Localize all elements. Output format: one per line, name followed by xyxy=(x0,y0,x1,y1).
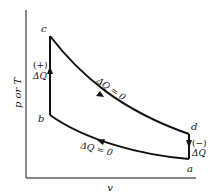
heat-out-sign: (−) xyxy=(192,138,207,148)
arrow-up-icon xyxy=(47,66,53,74)
adiabat-upper-label: ΔQ = 0 xyxy=(94,75,128,103)
point-label-a: a xyxy=(187,163,193,174)
point-label-c: c xyxy=(41,23,47,34)
thermodynamic-cycle-diagram: p or T v c b d a xyxy=(0,0,210,196)
process-c-d xyxy=(50,36,189,134)
heat-in-sign: (+) xyxy=(33,60,48,70)
y-axis-label: p or T xyxy=(12,77,23,109)
point-label-d: d xyxy=(191,121,197,132)
arrows xyxy=(47,66,192,148)
arrow-down-right-icon xyxy=(96,91,104,97)
process-a-b xyxy=(50,115,189,159)
heat-out-label: ΔQ xyxy=(191,148,206,158)
x-axis-label: v xyxy=(107,182,113,193)
point-label-b: b xyxy=(38,113,44,124)
heat-in-label: ΔQ xyxy=(32,71,47,81)
